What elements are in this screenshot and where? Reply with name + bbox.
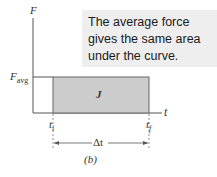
f-avg-subscript: avg [17, 76, 29, 85]
f-avg-label: Favg [10, 70, 28, 85]
t-f-label: tf [146, 118, 151, 133]
x-axis-label-text: t [164, 105, 167, 119]
callout-text: The average force gives the same area un… [88, 15, 201, 63]
y-axis-label-text: F [30, 4, 37, 16]
t-f-subscript: f [149, 124, 151, 133]
y-axis-label: F [30, 4, 37, 16]
arrowhead-right [143, 141, 148, 145]
arrowhead-left [54, 141, 59, 145]
delta-t-label: Δt [93, 136, 103, 148]
caption-text: (b) [84, 153, 97, 165]
area-label: J [96, 88, 102, 100]
x-axis-label: t [164, 105, 167, 120]
delta-t-text: Δt [93, 136, 103, 148]
callout-box: The average force gives the same area un… [82, 10, 217, 67]
area-text: J [96, 88, 102, 100]
t-i-label: ti [49, 118, 54, 133]
t-i-subscript: i [52, 124, 54, 133]
caption: (b) [84, 153, 97, 165]
f-avg-text: F [10, 70, 17, 82]
